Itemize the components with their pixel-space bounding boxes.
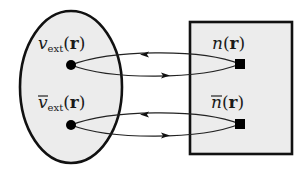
- node-nbar-square: [235, 119, 245, 129]
- arrow-left-icon: [140, 52, 149, 58]
- node-v-ext-dot: [66, 60, 76, 70]
- node-vbar-ext-dot: [66, 120, 76, 130]
- node-n-square: [235, 59, 245, 69]
- arrow-left-icon: [140, 112, 149, 118]
- label-nbar: n(r): [211, 92, 244, 112]
- diagram-canvas: vext(r) vext(r) n(r) n(r): [0, 0, 305, 172]
- label-n: n(r): [212, 33, 245, 53]
